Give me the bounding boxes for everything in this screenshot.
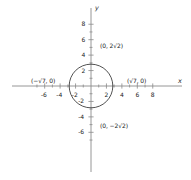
y-tick-label: 2 — [82, 68, 86, 74]
y-tick-label: -2 — [78, 98, 84, 104]
point-label-left: (−√7, 0) — [31, 78, 55, 84]
y-tick-label: 8 — [82, 21, 86, 27]
point-label-right: (√7, 0) — [127, 78, 146, 84]
plot-canvas — [0, 0, 191, 180]
y-axis-label: y — [95, 5, 99, 12]
point-label-bottom: (0, −2√2) — [100, 123, 128, 129]
axis-lines — [12, 8, 182, 172]
x-tick-label: -6 — [41, 92, 47, 98]
point-label-top: (0, 2√2) — [100, 43, 123, 49]
y-tick-label: -6 — [78, 129, 84, 135]
x-axis-label: x — [178, 78, 182, 85]
x-tick-label: -2 — [72, 92, 78, 98]
y-tick-label: 4 — [82, 52, 86, 58]
x-tick-label: 4 — [120, 92, 124, 98]
x-tick-label: -4 — [56, 92, 62, 98]
y-tick-label: 6 — [82, 37, 86, 43]
x-tick-label: 8 — [151, 92, 155, 98]
x-tick-label: 2 — [105, 92, 109, 98]
y-tick-label: -4 — [78, 114, 84, 120]
x-tick-label: 6 — [135, 92, 139, 98]
coordinate-plane-figure: x y (0, 2√2) (0, −2√2) (√7, 0) (−√7, 0) … — [0, 0, 191, 180]
